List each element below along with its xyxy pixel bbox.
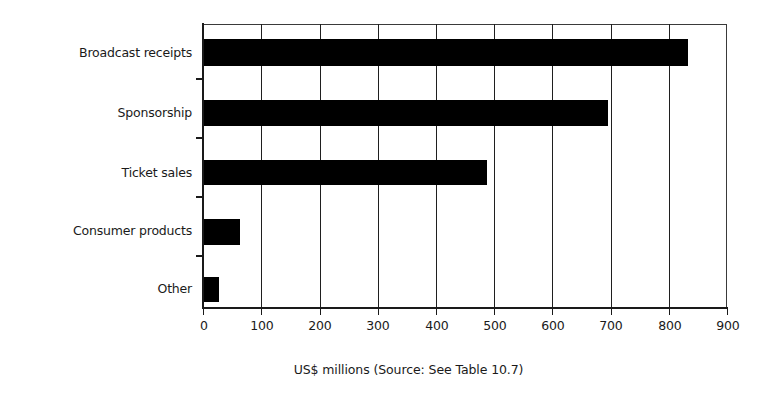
x-tick-700 xyxy=(611,309,612,315)
x-tick-100 xyxy=(261,309,262,315)
x-tick-label-400: 400 xyxy=(425,318,448,333)
category-label-other: Other xyxy=(158,281,193,296)
x-tick-label-0: 0 xyxy=(200,318,208,333)
y-tick-3 xyxy=(196,196,203,198)
category-label-sponsorship: Sponsorship xyxy=(118,105,192,120)
y-axis-line xyxy=(202,23,204,309)
gridline-800 xyxy=(669,24,670,308)
y-tick-2 xyxy=(196,137,203,139)
x-tick-label-700: 700 xyxy=(599,318,622,333)
x-tick-label-100: 100 xyxy=(250,318,273,333)
x-axis-title: US$ millions (Source: See Table 10.7) xyxy=(0,362,775,377)
x-tick-label-600: 600 xyxy=(541,318,564,333)
x-tick-label-800: 800 xyxy=(658,318,681,333)
x-tick-800 xyxy=(669,309,670,315)
x-tick-900 xyxy=(727,309,728,315)
y-tick-1 xyxy=(196,78,203,80)
category-label-consumer-products: Consumer products xyxy=(73,223,192,238)
x-tick-300 xyxy=(378,309,379,315)
x-tick-label-900: 900 xyxy=(716,318,739,333)
x-tick-label-500: 500 xyxy=(483,318,506,333)
category-label-broadcast-receipts: Broadcast receipts xyxy=(79,45,192,60)
x-tick-600 xyxy=(552,309,553,315)
bar-ticket-sales xyxy=(204,160,487,185)
x-tick-200 xyxy=(320,309,321,315)
y-tick-4 xyxy=(196,255,203,257)
gridline-600 xyxy=(552,24,553,308)
x-tick-label-300: 300 xyxy=(366,318,389,333)
x-tick-400 xyxy=(436,309,437,315)
bar-chart: Broadcast receipts Sponsorship Ticket sa… xyxy=(0,0,775,412)
x-tick-label-200: 200 xyxy=(308,318,331,333)
bar-consumer-products xyxy=(204,219,240,245)
bar-other xyxy=(204,277,219,302)
gridline-500 xyxy=(494,24,495,308)
gridline-700 xyxy=(611,24,612,308)
x-tick-0 xyxy=(203,309,204,315)
x-tick-500 xyxy=(494,309,495,315)
x-axis-line xyxy=(202,307,728,309)
category-label-ticket-sales: Ticket sales xyxy=(122,165,192,180)
bar-sponsorship xyxy=(204,100,608,126)
bar-broadcast-receipts xyxy=(204,39,688,66)
x-axis-title-text: US$ millions (Source: See Table 10.7) xyxy=(252,362,524,377)
